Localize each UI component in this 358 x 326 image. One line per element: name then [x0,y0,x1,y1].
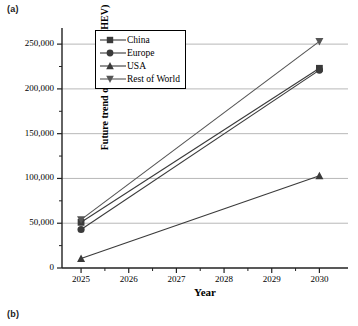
y-tick-label: 200,000 [0,83,54,93]
triangle-down-marker-icon [99,73,127,85]
x-tick-label: 2029 [252,274,292,284]
panel-label-a: (a) [7,4,19,14]
series-usa [77,172,323,262]
series-europe [77,66,323,233]
legend-item-rest-of-world[interactable]: Rest of World [99,72,180,85]
triangle-up-marker-icon [99,60,127,72]
chart-legend: ChinaEuropeUSARest of World [95,30,186,89]
y-tick-label: 0 [0,262,54,272]
y-tick-label: 250,000 [0,38,54,48]
square-marker-icon [99,34,127,46]
circle-marker-icon [99,47,127,59]
chart-plot-area: Future trend of van stock (PHEV) Year 05… [62,28,348,268]
legend-label: Rest of World [127,73,180,85]
x-tick-label: 2026 [109,274,149,284]
panel-label-b: (b) [7,309,19,319]
x-tick-label: 2025 [61,274,101,284]
legend-item-china[interactable]: China [99,33,180,46]
x-tick-label: 2028 [204,274,244,284]
y-tick-label: 150,000 [0,128,54,138]
x-tick-label: 2030 [299,274,339,284]
x-axis-title: Year [62,286,348,298]
legend-item-usa[interactable]: USA [99,59,180,72]
legend-label: USA [127,60,146,72]
x-tick-label: 2027 [156,274,196,284]
figure-panel-a: (a) (b) Future trend of van stock (PHEV)… [0,0,358,326]
legend-label: Europe [127,47,154,59]
y-tick-label: 100,000 [0,172,54,182]
legend-item-europe[interactable]: Europe [99,46,180,59]
y-tick-label: 50,000 [0,217,54,227]
legend-label: China [127,34,150,46]
